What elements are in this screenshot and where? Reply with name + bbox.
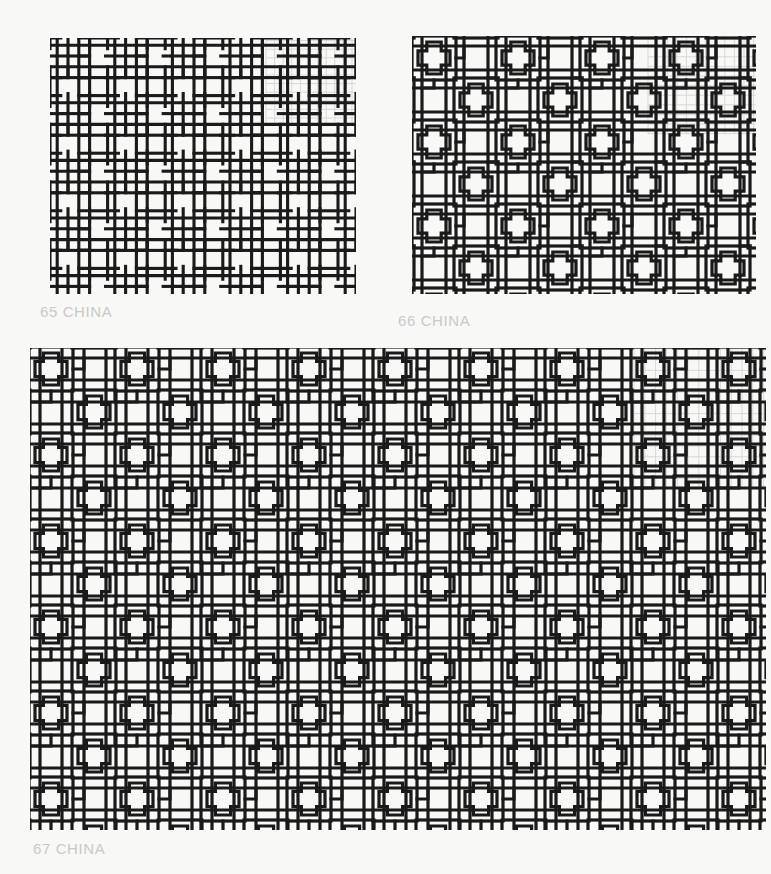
plate-caption-66: 66 CHINA [398, 312, 470, 329]
pattern-artwork-66 [412, 36, 756, 294]
pattern-plate-67 [30, 348, 766, 830]
pattern-artwork-65 [50, 38, 356, 294]
plate-caption-65: 65 CHINA [40, 303, 112, 320]
plate-caption-67: 67 CHINA [33, 840, 105, 857]
pattern-plate-65 [50, 38, 356, 294]
pattern-artwork-67 [30, 348, 766, 830]
pattern-plate-66 [412, 36, 756, 294]
pattern-plate-page: 65 CHINA 66 CHINA 67 CHINA [0, 0, 771, 874]
